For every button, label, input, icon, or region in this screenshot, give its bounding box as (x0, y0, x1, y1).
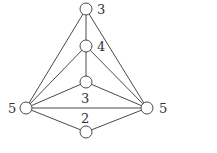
graph-diagram: 3 4 5 5 3 2 (0, 0, 217, 153)
node-bottom (80, 126, 92, 138)
node-label-upper-mid: 4 (97, 39, 105, 54)
node-label-left: 5 (8, 101, 16, 116)
node-center (80, 76, 92, 88)
edge-right-bottom (86, 108, 147, 132)
edge-center-right (86, 82, 147, 108)
edge-top-left (26, 9, 86, 108)
edge-upper-mid-left (26, 46, 86, 108)
node-top (80, 3, 92, 15)
edge-top-right (86, 9, 147, 108)
node-label-right: 5 (159, 101, 167, 116)
node-upper-mid (80, 40, 92, 52)
edge-label-bottom-region: 2 (81, 111, 89, 126)
node-label-top: 3 (97, 2, 105, 17)
edge-center-left (26, 82, 86, 108)
node-right (141, 102, 153, 114)
edge-left-bottom (26, 108, 86, 132)
edge-upper-mid-right (86, 46, 147, 108)
edge-label-left-right: 3 (81, 91, 89, 106)
node-left (20, 102, 32, 114)
